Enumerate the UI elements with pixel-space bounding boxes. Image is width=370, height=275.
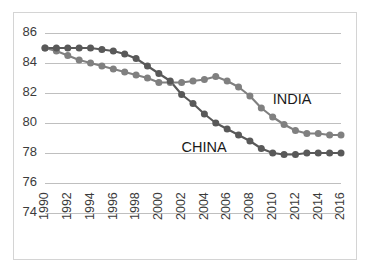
data-point-india (258, 105, 265, 112)
data-point-china (87, 45, 94, 52)
data-point-china (338, 150, 345, 157)
data-point-china (326, 150, 333, 157)
x-tick-label: 2012 (288, 192, 302, 220)
data-point-china (303, 150, 310, 157)
x-tick-label: 2016 (333, 192, 347, 220)
data-point-china (64, 45, 71, 52)
x-tick-label: 1992 (60, 192, 74, 220)
data-point-china (53, 45, 60, 52)
data-point-india (155, 79, 162, 86)
x-tick-label: 1990 (37, 192, 51, 220)
data-point-india (201, 76, 208, 83)
data-point-india (110, 66, 117, 73)
y-axis-tick-labels: 86848280787674 (23, 24, 37, 219)
x-tick-label: 1996 (106, 192, 120, 220)
data-point-india (315, 130, 322, 137)
data-point-india (64, 52, 71, 59)
y-tick-label: 74 (23, 204, 37, 219)
data-point-china (178, 91, 185, 98)
data-point-china (315, 150, 322, 157)
data-point-china (292, 151, 299, 158)
data-point-india (190, 78, 197, 85)
y-tick-label: 84 (23, 54, 37, 69)
data-point-china (224, 126, 231, 133)
x-tick-label: 1998 (128, 192, 142, 220)
data-point-india (235, 84, 242, 91)
x-tick-label: 2000 (151, 192, 165, 220)
x-tick-label: 2002 (174, 192, 188, 220)
x-tick-label: 2014 (311, 192, 325, 220)
y-tick-label: 80 (23, 114, 37, 129)
data-point-china (155, 70, 162, 77)
x-tick-label: 2006 (219, 192, 233, 220)
data-point-india (87, 60, 94, 67)
data-point-china (190, 100, 197, 107)
data-point-india (76, 57, 83, 64)
data-point-china (144, 63, 151, 70)
data-point-india (338, 132, 345, 139)
x-tick-label: 2010 (265, 192, 279, 220)
data-point-china (258, 145, 265, 152)
data-point-china (110, 48, 117, 55)
data-point-china (235, 132, 242, 139)
data-point-india (98, 63, 105, 70)
data-point-india (292, 127, 299, 134)
data-point-china (76, 45, 83, 52)
data-point-china (246, 138, 253, 145)
data-point-china (167, 78, 174, 85)
data-point-china (133, 55, 140, 62)
y-tick-label: 86 (23, 24, 37, 39)
data-point-china (201, 111, 208, 118)
x-axis-tick-labels: 1990199219941996199820002002200420062008… (37, 192, 347, 220)
data-point-china (281, 151, 288, 158)
data-point-india (144, 75, 151, 82)
x-tick-label: 2008 (242, 192, 256, 220)
data-point-india (281, 121, 288, 128)
y-tick-label: 76 (23, 174, 37, 189)
data-point-india (178, 79, 185, 86)
data-point-india (133, 72, 140, 79)
data-point-india (326, 132, 333, 139)
x-tick-label: 1994 (83, 192, 97, 220)
y-tick-label: 82 (23, 84, 37, 99)
series-label-india: INDIA (273, 91, 312, 107)
data-point-china (121, 51, 128, 58)
x-tick-label: 2004 (197, 192, 211, 220)
line-chart: 86848280787674 1990199219941996199820002… (0, 0, 370, 275)
data-point-india (246, 93, 253, 100)
data-point-india (212, 73, 219, 80)
data-point-china (98, 46, 105, 53)
data-point-china (269, 150, 276, 157)
series-label-china: CHINA (182, 139, 227, 155)
data-point-india (303, 130, 310, 137)
data-point-china (212, 120, 219, 127)
data-point-india (121, 69, 128, 76)
data-point-india (224, 78, 231, 85)
data-point-china (42, 45, 49, 52)
data-point-india (269, 114, 276, 121)
y-tick-label: 78 (23, 144, 37, 159)
